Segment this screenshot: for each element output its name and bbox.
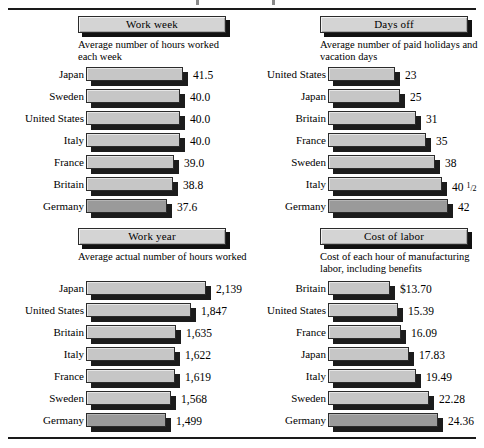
panel-subtitle: Average number of paid holidays and vaca…: [320, 39, 480, 62]
bar: [328, 281, 390, 300]
bar-row: France16.09: [242, 324, 484, 346]
cropped-headline-remnant: [196, 0, 199, 5]
bar: [86, 111, 180, 130]
bar-value-label: 19.49: [426, 371, 452, 384]
bar: [328, 347, 409, 366]
bar-value-label: 35: [436, 135, 448, 148]
bar-face: [86, 369, 175, 383]
bar-face: [328, 281, 390, 295]
bar: [328, 89, 400, 108]
bar: [328, 369, 416, 388]
panel-title-box: Work week: [78, 16, 226, 33]
bar-category-label: United States: [206, 304, 326, 317]
panel-title: Work year: [128, 231, 176, 242]
bar-category-label: Britain: [206, 112, 326, 125]
bar: [86, 413, 166, 432]
panel-title-box: Work year: [78, 228, 226, 245]
bar-face: [86, 155, 174, 169]
cropped-headline-remnant: [272, 0, 275, 5]
bar-row: Italy40 1/2: [242, 176, 484, 198]
bar-row: Britain31: [242, 110, 484, 132]
bar: [86, 67, 183, 86]
panel-title-box: Days off: [320, 16, 468, 33]
bar-value-label: 25: [410, 91, 422, 104]
title-box-face: Work week: [78, 16, 226, 33]
bar-face: [328, 325, 401, 339]
bar-value-label: 24.36: [448, 415, 474, 428]
bar: [328, 325, 401, 344]
title-box-face: Days off: [320, 16, 468, 33]
bar-category-label: France: [206, 326, 326, 339]
bar-face: [86, 199, 167, 213]
bar: [86, 133, 180, 152]
bar: [86, 303, 191, 322]
bar-face: [328, 133, 426, 147]
bar-value-label: 31: [426, 113, 438, 126]
bar-category-label: Japan: [0, 282, 84, 295]
bar-face: [328, 391, 429, 405]
panel-days-off: Days off Average number of paid holidays…: [242, 12, 484, 224]
bar-category-label: Germany: [206, 414, 326, 427]
panel-subtitle: Cost of each hour of manufacturing labor…: [320, 251, 484, 274]
panel-title: Days off: [374, 19, 414, 30]
bar-row: Britain$13.70: [242, 280, 484, 302]
bar: [86, 347, 175, 366]
bar: [328, 199, 448, 218]
bar-face: [86, 303, 191, 317]
bar-face: [328, 369, 416, 383]
top-divider-rule: [8, 8, 476, 10]
bar: [86, 89, 180, 108]
bar-category-label: Sweden: [0, 392, 84, 405]
bottom-divider-rule: [8, 437, 476, 439]
bar-value-label: 22.28: [439, 393, 465, 406]
bar-face: [86, 177, 173, 191]
bar-value-label: 17.83: [419, 349, 445, 362]
panel-title: Cost of labor: [364, 231, 424, 242]
bar-row: Sweden38: [242, 154, 484, 176]
bar-category-label: France: [206, 134, 326, 147]
bar: [328, 111, 416, 130]
title-box-face: Work year: [78, 228, 226, 245]
bar-category-label: Italy: [206, 178, 326, 191]
bar-category-label: Sweden: [0, 90, 84, 103]
bar-face: [328, 413, 438, 427]
bar-face: [328, 303, 398, 317]
bar-value-label: 37.6: [177, 201, 197, 214]
bar-value-label: 1,568: [181, 393, 207, 406]
bar-face: [86, 111, 180, 125]
panel-title: Work week: [126, 19, 178, 30]
bar-face: [86, 281, 206, 295]
bar-face: [86, 413, 166, 427]
bar-row: United States23: [242, 66, 484, 88]
bar-row: Germany42: [242, 198, 484, 220]
bar-row: Japan17.83: [242, 346, 484, 368]
bar-category-label: Britain: [0, 178, 84, 191]
panel-cost-of-labor: Cost of labor Cost of each hour of manuf…: [242, 224, 484, 436]
bar-category-label: Britain: [0, 326, 84, 339]
bar-row: Italy19.49: [242, 368, 484, 390]
bar-rows: Britain$13.70United States15.39France16.…: [242, 280, 484, 434]
bar-category-label: United States: [206, 68, 326, 81]
bar-category-label: Italy: [0, 134, 84, 147]
bar: [328, 303, 398, 322]
bar-value-label: 38.8: [183, 179, 203, 192]
panel-subtitle: Average number of hours worked each week: [78, 39, 238, 62]
bar-face: [328, 347, 409, 361]
bar: [86, 391, 171, 410]
bar-category-label: Japan: [206, 348, 326, 361]
bar: [328, 413, 438, 432]
bar-category-label: Sweden: [206, 156, 326, 169]
bar-face: [328, 199, 448, 213]
bar-value-label: 38: [445, 157, 457, 170]
bar: [86, 369, 175, 388]
bar: [86, 177, 173, 196]
bar-value-label: 23: [405, 69, 417, 82]
bar-category-label: Italy: [0, 348, 84, 361]
bar: [328, 391, 429, 410]
bar-face: [86, 89, 180, 103]
bar: [328, 155, 435, 174]
bar-value-label: $13.70: [400, 283, 432, 296]
bar-row: Sweden22.28: [242, 390, 484, 412]
bar-category-label: Germany: [0, 200, 84, 213]
bar-category-label: Germany: [0, 414, 84, 427]
